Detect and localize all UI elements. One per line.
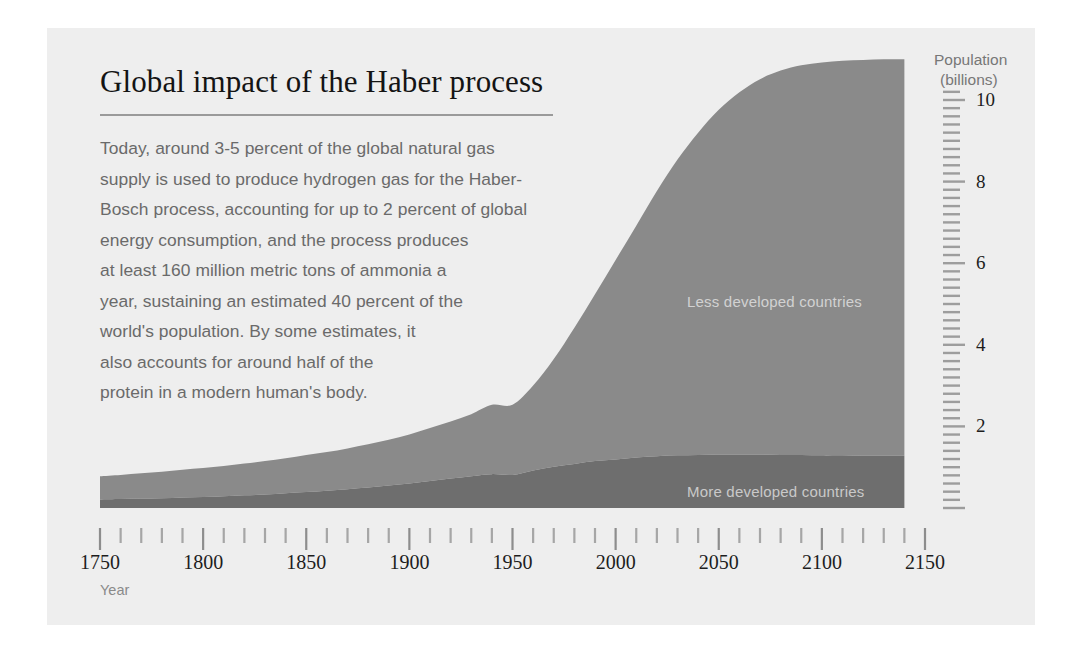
body-line: year, sustaining an estimated 40 percent… <box>100 286 570 317</box>
series-label-less-developed: Less developed countries <box>687 293 862 310</box>
x-tick-label: 2100 <box>802 551 842 574</box>
body-line: protein in a modern human's body. <box>100 377 570 408</box>
y-tick-label: 6 <box>976 252 986 274</box>
body-line: at least 160 million metric tons of ammo… <box>100 255 570 286</box>
y-tick-label: 2 <box>976 415 986 437</box>
y-tick-label: 4 <box>976 334 986 356</box>
y-tick-label: 8 <box>976 171 986 193</box>
body-line: also accounts for around half of the <box>100 347 570 378</box>
x-tick-label: 1800 <box>183 551 223 574</box>
x-tick-label: 1900 <box>389 551 429 574</box>
body-line: supply is used to produce hydrogen gas f… <box>100 164 570 195</box>
y-tick-label: 10 <box>976 89 995 111</box>
x-tick-label: 1950 <box>493 551 533 574</box>
x-tick-label: 1750 <box>80 551 120 574</box>
y-axis-title-line1: Population <box>934 51 1007 68</box>
x-tick-label: 2150 <box>905 551 945 574</box>
y-axis-title: Population (billions) <box>934 50 1054 90</box>
x-tick-label: 2050 <box>699 551 739 574</box>
body-line: Today, around 3-5 percent of the global … <box>100 133 570 164</box>
body-line: energy consumption, and the process prod… <box>100 225 570 256</box>
series-label-more-developed: More developed countries <box>687 483 864 500</box>
body-paragraph: Today, around 3-5 percent of the global … <box>100 133 570 408</box>
body-line: world's population. By some estimates, i… <box>100 316 570 347</box>
y-axis-title-line2: (billions) <box>934 70 1054 90</box>
x-tick-label: 2000 <box>596 551 636 574</box>
body-line: Bosch process, accounting for up to 2 pe… <box>100 194 570 225</box>
x-axis-title: Year <box>100 582 129 598</box>
text-block: Global impact of the Haber process Today… <box>100 62 570 408</box>
figure-root: Global impact of the Haber process Today… <box>0 0 1072 645</box>
x-tick-label: 1850 <box>286 551 326 574</box>
title-divider <box>100 114 553 116</box>
page-title: Global impact of the Haber process <box>100 62 570 102</box>
